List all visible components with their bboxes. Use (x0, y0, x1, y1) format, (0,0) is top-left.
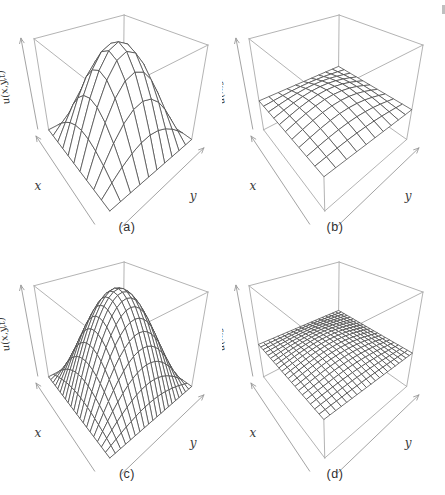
panel-b: xyu(x,y,t) (b) (222, 0, 445, 247)
figure-2x2-surface-plots: xyu(x,y,t) (a) xyu(x,y,t) (b) xyu(x,y,t)… (0, 0, 445, 495)
panel-c: xyu(x,y,t) (c) (0, 247, 222, 495)
svg-text:y: y (404, 189, 412, 203)
svg-text:y: y (404, 436, 412, 450)
caption-b: (b) (224, 220, 445, 234)
svg-text:u(x,y,t): u(x,y,t) (0, 69, 12, 105)
caption-c: (c) (16, 467, 238, 481)
svg-text:x: x (35, 426, 42, 440)
svg-text:y: y (189, 189, 197, 203)
surface-plot-b: xyu(x,y,t) (222, 0, 445, 247)
svg-text:u(x,y,t): u(x,y,t) (222, 316, 227, 352)
svg-text:y: y (189, 436, 197, 450)
svg-text:x: x (250, 426, 257, 440)
svg-text:u(x,y,t): u(x,y,t) (222, 69, 227, 105)
panel-a: xyu(x,y,t) (a) (0, 0, 222, 247)
surface-plot-c: xyu(x,y,t) (0, 247, 222, 495)
svg-text:x: x (35, 179, 42, 193)
caption-d: (d) (224, 467, 445, 481)
caption-a: (a) (16, 220, 238, 234)
surface-plot-a: xyu(x,y,t) (0, 0, 222, 247)
surface-plot-d: xyu(x,y,t) (222, 247, 445, 495)
panel-d: xyu(x,y,t) (d) (222, 247, 445, 495)
svg-text:u(x,y,t): u(x,y,t) (0, 316, 12, 352)
svg-text:x: x (250, 179, 257, 193)
